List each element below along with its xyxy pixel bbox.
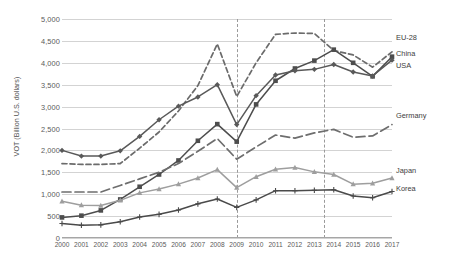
y-tick-label: 500 <box>26 212 60 221</box>
y-axis-title: VOT (Billion U.S. dollars) <box>12 47 21 187</box>
data-point-marker <box>195 201 200 207</box>
data-point-marker <box>292 188 297 194</box>
data-point-marker <box>273 78 278 83</box>
series-line <box>62 167 392 205</box>
y-tick-label: 3,000 <box>26 103 60 112</box>
data-point-marker <box>59 148 64 153</box>
data-point-marker <box>254 197 259 203</box>
data-point-marker <box>137 214 142 220</box>
x-tick-label: 2006 <box>171 241 186 248</box>
y-tick-label: 4,000 <box>26 59 60 68</box>
data-point-marker <box>79 213 84 218</box>
data-point-marker <box>331 47 336 52</box>
x-tick-label: 2011 <box>268 241 282 248</box>
series-korea <box>59 187 394 228</box>
series-labels: EU-28ChinaUSAGermanyJapanKorea <box>396 0 459 261</box>
data-point-marker <box>351 193 356 199</box>
x-tick-label: 2000 <box>55 241 70 248</box>
y-tick-label: 4,500 <box>26 37 60 46</box>
data-point-marker <box>273 188 278 194</box>
y-tick-label: 1,500 <box>26 168 60 177</box>
data-point-marker <box>60 215 65 220</box>
x-tick-label: 2007 <box>191 241 206 248</box>
series-line <box>62 60 392 156</box>
data-point-marker <box>215 122 220 127</box>
data-point-marker <box>176 207 181 213</box>
data-point-marker <box>215 167 220 172</box>
series-label-korea: Korea <box>396 184 416 193</box>
line-chart: VOT (Billion U.S. dollars) 05001,0001,50… <box>0 0 459 261</box>
data-point-marker <box>312 67 317 72</box>
series-line <box>62 125 392 192</box>
data-point-marker <box>331 62 336 67</box>
data-point-marker <box>98 222 103 228</box>
data-point-marker <box>389 175 394 180</box>
x-tick-label: 2014 <box>326 241 341 248</box>
series-label-eu-28: EU-28 <box>396 33 417 42</box>
data-point-marker <box>234 205 239 211</box>
x-tick-label: 2009 <box>229 241 244 248</box>
series-label-china: China <box>396 49 415 58</box>
series-layer <box>62 19 392 238</box>
x-tick-label: 2008 <box>210 241 225 248</box>
y-tick-label: 1,000 <box>26 190 60 199</box>
data-point-marker <box>79 153 84 158</box>
data-point-marker <box>137 184 142 189</box>
series-germany <box>62 125 392 192</box>
series-label-usa: USA <box>396 61 411 70</box>
data-point-marker <box>99 208 104 213</box>
series-line <box>62 33 392 164</box>
x-tick-label: 2016 <box>365 241 380 248</box>
y-tick-label: 5,000 <box>26 15 60 24</box>
plot-area <box>62 19 392 238</box>
data-point-marker <box>312 187 317 193</box>
data-point-marker <box>118 219 123 225</box>
data-point-marker <box>156 212 161 218</box>
data-point-marker <box>98 153 103 158</box>
series-label-germany: Germany <box>396 111 426 120</box>
gridline <box>62 238 392 239</box>
x-tick-label: 2013 <box>307 241 322 248</box>
x-tick-label: 2015 <box>346 241 361 248</box>
data-point-marker <box>234 139 239 144</box>
series-line <box>62 190 392 225</box>
x-tick-label: 2005 <box>152 241 167 248</box>
data-point-marker <box>351 61 356 66</box>
data-point-marker <box>254 102 259 107</box>
x-tick-label: 2012 <box>288 241 303 248</box>
x-tick-label: 2003 <box>113 241 128 248</box>
x-tick-label: 2004 <box>132 241 147 248</box>
series-label-japan: Japan <box>396 166 416 175</box>
data-point-marker <box>370 195 375 201</box>
data-point-marker <box>312 58 317 63</box>
series-japan <box>59 165 394 208</box>
data-point-marker <box>59 221 64 227</box>
x-axis-tick-labels: 2000200120022003200420052006200720082009… <box>62 241 392 257</box>
y-tick-label: 2,000 <box>26 146 60 155</box>
y-tick-label: 2,500 <box>26 125 60 134</box>
x-tick-label: 2001 <box>74 241 89 248</box>
x-tick-label: 2010 <box>249 241 264 248</box>
data-point-marker <box>331 187 336 193</box>
series-eu-28 <box>62 33 392 164</box>
x-tick-label: 2002 <box>93 241 108 248</box>
data-point-marker <box>350 69 355 74</box>
data-point-marker <box>79 222 84 228</box>
y-axis-tick-labels: 05001,0001,5002,0002,5003,0003,5004,0004… <box>26 0 60 261</box>
data-point-marker <box>196 138 201 143</box>
y-tick-label: 3,500 <box>26 81 60 90</box>
data-point-marker <box>215 196 220 202</box>
data-point-marker <box>389 189 394 195</box>
